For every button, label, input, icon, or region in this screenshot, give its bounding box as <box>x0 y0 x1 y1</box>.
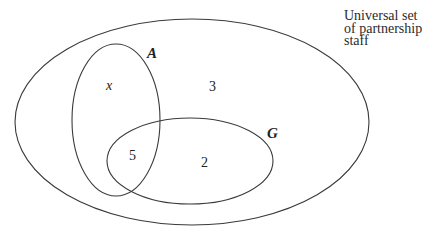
set-a-label: A <box>146 45 157 61</box>
region-a-only-value: x <box>105 78 113 93</box>
set-a-outline <box>72 44 160 196</box>
region-g-only-value: 2 <box>201 155 208 170</box>
region-a-and-g-value: 5 <box>129 148 136 163</box>
universal-set-caption: Universal set of partnership staff <box>344 10 422 48</box>
universal-set-caption-line-3: staff <box>344 35 422 48</box>
set-g-label: G <box>267 125 278 141</box>
universal-set-outline <box>15 19 369 225</box>
region-neither-value: 3 <box>209 79 216 94</box>
